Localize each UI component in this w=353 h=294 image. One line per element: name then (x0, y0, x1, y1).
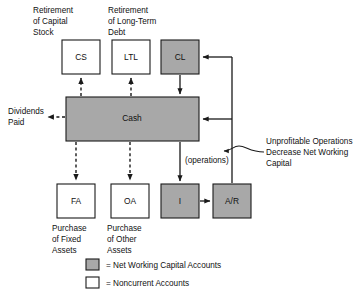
caption-dividends-paid: Dividends Paid (8, 107, 44, 127)
caption-purchase-fixed-assets: Purchase of Fixed Assets (52, 224, 87, 255)
caption-line: of Other (107, 235, 137, 244)
caption-line: Purchase (52, 224, 87, 233)
caption-line: Assets (107, 246, 132, 255)
box-oa[interactable]: OA (111, 184, 149, 218)
note-unprofitable-operations: Unprofitable Operations Decrease Net Wor… (266, 137, 352, 168)
caption-line: Stock (33, 28, 54, 37)
box-accounts-receivable[interactable]: A/R (213, 184, 251, 218)
caption-purchase-other-assets: Purchase of Other Assets (107, 224, 142, 255)
caption-line: of Fixed (52, 235, 82, 244)
box-ltl-label: LTL (124, 52, 138, 62)
caption-line: Retirement (108, 6, 149, 15)
box-cash[interactable]: Cash (66, 97, 199, 141)
box-cl-label: CL (175, 52, 186, 62)
caption-line: Paid (8, 118, 25, 127)
box-oa-label: OA (124, 196, 137, 206)
note-line: Decrease Net Working (266, 148, 349, 157)
box-cs-label: CS (75, 52, 87, 62)
caption-line: Dividends (8, 107, 44, 116)
note-line: Capital (266, 159, 292, 168)
box-fa[interactable]: FA (57, 184, 95, 218)
diagram-canvas: Retirement of Capital Stock Retirement o… (0, 0, 353, 294)
caption-line: of Long-Term (108, 17, 156, 26)
cash-flow-diagram: Retirement of Capital Stock Retirement o… (0, 0, 353, 294)
legend-swatch-gray (86, 259, 99, 270)
note-leader-line (224, 146, 264, 152)
box-cash-label: Cash (122, 113, 142, 123)
caption-retirement-long-term-debt: Retirement of Long-Term Debt (108, 6, 156, 37)
box-accounts-receivable-label: A/R (225, 196, 239, 206)
legend-row-noncurrent: = Noncurrent Accounts (86, 277, 189, 288)
note-line: Unprofitable Operations (266, 137, 352, 146)
legend-swatch-white (86, 277, 99, 288)
legend-label-noncurrent: = Noncurrent Accounts (106, 279, 189, 288)
label-operations: (operations) (185, 156, 229, 165)
caption-line: Retirement (33, 6, 74, 15)
caption-line: of Capital (33, 17, 68, 26)
box-cs[interactable]: CS (62, 40, 100, 74)
box-cl[interactable]: CL (161, 40, 199, 74)
caption-retirement-capital-stock: Retirement of Capital Stock (33, 6, 74, 37)
caption-line: Purchase (107, 224, 142, 233)
legend-label-net-working-capital: = Net Working Capital Accounts (106, 261, 221, 270)
box-inventory-label: I (179, 196, 181, 206)
box-inventory[interactable]: I (161, 184, 199, 218)
legend-row-net-working-capital: = Net Working Capital Accounts (86, 259, 221, 270)
caption-line: Debt (108, 28, 126, 37)
caption-line: Assets (52, 246, 77, 255)
box-ltl[interactable]: LTL (112, 40, 150, 74)
box-fa-label: FA (71, 196, 82, 206)
